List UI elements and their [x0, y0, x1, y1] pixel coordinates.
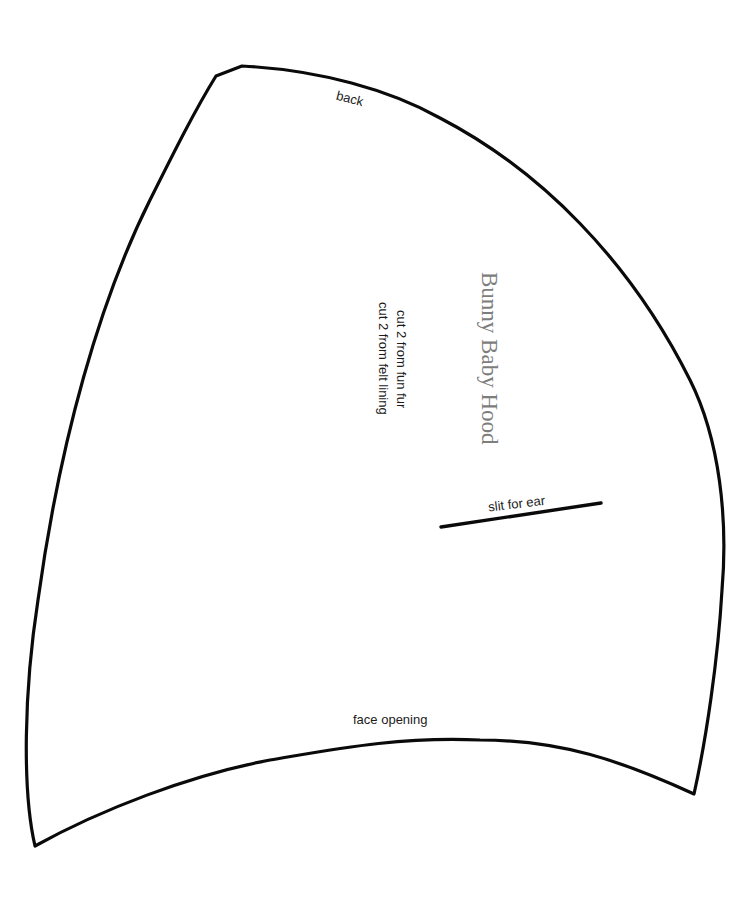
cut-instruction-fur: cut 2 from fun fur	[394, 310, 409, 409]
cut-instruction-lining: cut 2 from felt lining	[376, 302, 391, 415]
pattern-title: Bunny Baby Hood	[477, 272, 502, 445]
face-opening-label: face opening	[353, 712, 427, 727]
pattern-outline	[26, 66, 724, 846]
hood-pattern-piece: back Bunny Baby Hood cut 2 from fun fur …	[0, 0, 739, 910]
back-edge-label: back	[335, 88, 366, 109]
